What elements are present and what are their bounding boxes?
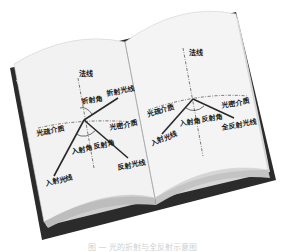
- figure-caption: 图 — 光的折射与全反射示意图: [88, 242, 197, 252]
- left-label-normal: 法线: [79, 69, 93, 78]
- right-label-normal: 法线: [189, 48, 203, 57]
- book-illustration: 法线 折射光线 折射角 光疏介质 光密介质 入射角 反射角 反射光线 入射光线 …: [0, 0, 283, 252]
